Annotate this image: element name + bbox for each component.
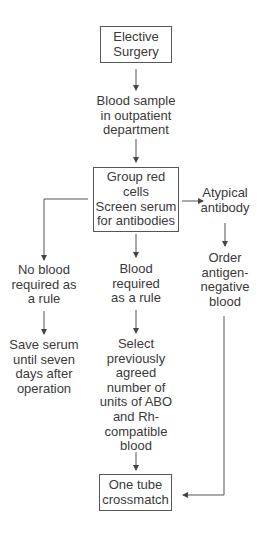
node-text: Blood [96,262,176,277]
node-text: as a rule [96,291,176,306]
node-text: Save serum [4,338,84,353]
node-text: previously [91,352,181,367]
node-atypical-antibody: Atypical antibody [195,186,255,215]
node-text: in outpatient [86,109,186,124]
node-text: negative [195,280,255,295]
arrow-order-to-crossmatch [183,316,224,495]
node-text: antigen- [195,266,255,281]
node-text: units of ABO [91,395,181,410]
node-group-screen: Group red cells Screen serum for antibod… [93,167,179,232]
node-text: antibody [195,201,255,216]
node-text: Surgery [101,45,171,60]
node-text: One tube [100,478,171,493]
node-text: until seven [4,353,84,368]
node-text: and Rh- [91,410,181,425]
flowchart: Elective Surgery Blood sample in outpati… [0,0,267,542]
node-text: blood [195,295,255,310]
node-blood-sample: Blood sample in outpatient department [86,94,186,138]
node-blood-required: Blood required as a rule [96,262,176,306]
node-select-units: Select previously agreed number of units… [91,337,181,454]
node-text: required as [4,278,84,293]
node-text: number of [91,381,181,396]
node-text: operation [4,382,84,397]
node-text: agreed [91,366,181,381]
node-text: Select [91,337,181,352]
node-one-tube-crossmatch: One tube crossmatch [99,474,172,511]
node-text: department [86,123,186,138]
node-order-antigen-negative: Order antigen- negative blood [195,251,255,309]
node-text: Atypical [195,186,255,201]
node-text: No blood [4,263,84,278]
node-text: days after [4,367,84,382]
node-save-serum: Save serum until seven days after operat… [4,338,84,396]
node-text: required [96,277,176,292]
node-text: compatible [91,425,181,440]
node-text: a rule [4,292,84,307]
node-text: Blood sample [86,94,186,109]
node-text: cells [94,185,178,200]
node-text: Group red [94,170,178,185]
node-text: blood [91,439,181,454]
node-no-blood-required: No blood required as a rule [4,263,84,307]
arrow-group-to-no-blood [44,199,88,260]
node-text: crossmatch [100,493,171,508]
node-text: Screen serum [94,200,178,215]
node-text: for antibodies [94,214,178,229]
node-text: Elective [101,30,171,45]
node-elective-surgery: Elective Surgery [100,26,172,63]
node-text: Order [195,251,255,266]
